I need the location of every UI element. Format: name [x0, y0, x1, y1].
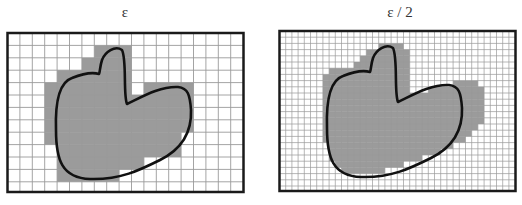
grid-covering-diagram — [0, 0, 522, 205]
covering-cell-run — [323, 136, 466, 142]
covering-cell-run — [323, 124, 478, 130]
fine-grid-panel — [280, 31, 516, 191]
covering-cell-run — [45, 132, 181, 144]
covering-cell-run — [335, 161, 403, 167]
covering-cell-run — [57, 157, 144, 169]
covering-cell-run — [94, 45, 131, 57]
covering-cell-run — [45, 83, 132, 95]
coarse-grid-panel — [8, 33, 244, 192]
covering-cell-run — [354, 62, 410, 68]
covering-cell-run — [329, 155, 422, 161]
